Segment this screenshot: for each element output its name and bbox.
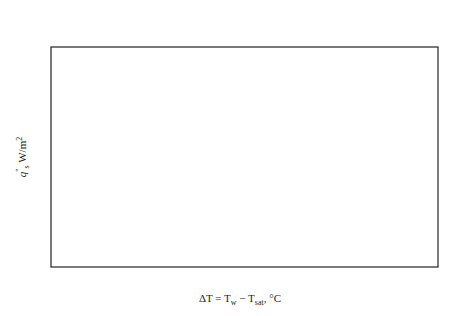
boiling-curve-chart: ΔT = Tw − Tsat, °C q"s W/m2 <box>0 0 454 316</box>
y-axis-label: q"s W/m2 <box>15 137 31 177</box>
x-axis-label: ΔT = Tw − Tsat, °C <box>199 292 281 307</box>
plot-frame <box>51 47 438 267</box>
boiling-curve-diagram: ΔT = Tw − Tsat, °C q"s W/m2 <box>0 0 454 316</box>
